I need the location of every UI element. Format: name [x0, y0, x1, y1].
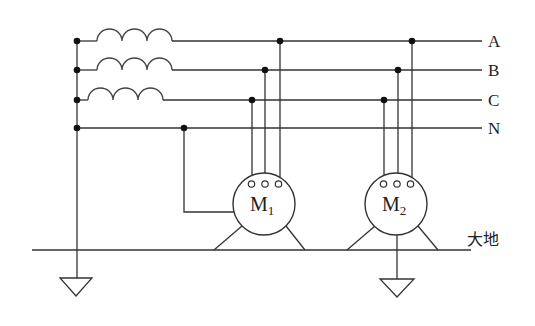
winding-c-icon: [88, 88, 163, 100]
junction-dot: [74, 97, 81, 104]
line-label-a: A: [488, 32, 501, 51]
junction-dot: [74, 38, 81, 45]
motor-m1-base-left: [214, 226, 242, 250]
tn-grounding-diagram: M1 M2 大地 A B C N: [0, 0, 535, 326]
line-label-c: C: [488, 91, 499, 110]
motor-m2-base-left: [347, 226, 375, 250]
line-label-n: N: [488, 119, 500, 138]
motor-m2: M2: [347, 173, 438, 279]
ground-left-icon: [60, 278, 92, 296]
ground-m2-icon: [380, 279, 414, 297]
winding-a-icon: [97, 29, 172, 41]
motor-m2-feeds: [381, 38, 416, 183]
winding-b-icon: [97, 58, 172, 70]
line-label-b: B: [488, 61, 499, 80]
motor-m2-base-right: [418, 226, 438, 250]
junction-dot: [74, 125, 81, 132]
motor-m1-base-right: [286, 226, 305, 250]
junction-dot: [74, 67, 81, 74]
earth-label: 大地: [467, 230, 499, 249]
